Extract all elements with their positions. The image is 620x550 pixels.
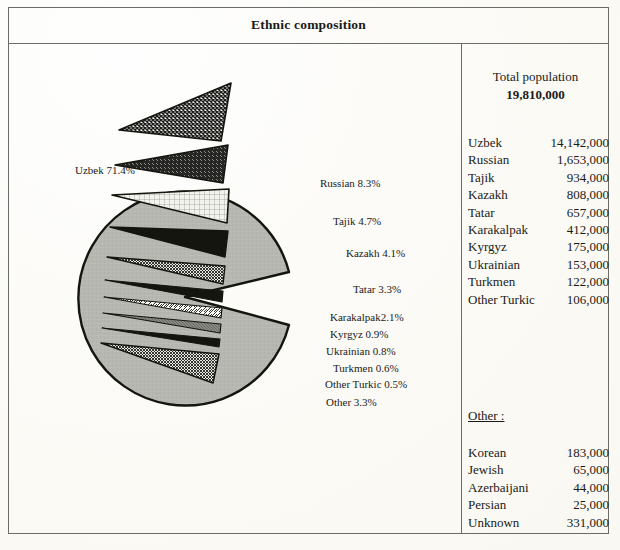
- table-row: Jewish 65,000: [468, 461, 609, 478]
- ethnic-population-table: Uzbek 14,142,000 Russian 1,653,000 Tajik…: [468, 134, 609, 308]
- table-row: Karakalpak 412,000: [468, 221, 609, 238]
- row-value: 657,000: [567, 204, 609, 221]
- table-row: Russian 1,653,000: [468, 151, 609, 168]
- pie-label-uzbek: Uzbek 71.4%: [75, 165, 135, 176]
- table-row: Kazakh 808,000: [468, 186, 609, 203]
- total-population-value: 19,810,000: [462, 86, 609, 104]
- row-label: Ukrainian: [468, 256, 520, 273]
- row-value: 153,000: [567, 256, 609, 273]
- table-row: Persian 25,000: [468, 496, 609, 513]
- pie-label-kazakh: Kazakh 4.1%: [346, 248, 405, 259]
- row-value: 331,000: [567, 514, 609, 531]
- row-label: Azerbaijani: [468, 479, 529, 496]
- title-bar: Ethnic composition: [8, 7, 609, 44]
- row-value: 14,142,000: [551, 134, 610, 151]
- pie-label-russian: Russian 8.3%: [320, 178, 381, 189]
- row-value: 44,000: [573, 479, 609, 496]
- page-title: Ethnic composition: [251, 17, 366, 33]
- pie-label-other-turkic: Other Turkic 0.5%: [325, 379, 407, 390]
- pie-label-karakalpak: Karakalpak2.1%: [330, 312, 404, 323]
- table-row: Unknown 331,000: [468, 514, 609, 531]
- pie-slice-russian: [119, 83, 231, 141]
- row-value: 934,000: [567, 169, 609, 186]
- row-label: Kyrgyz: [468, 238, 507, 255]
- table-row: Other Turkic 106,000: [468, 291, 609, 308]
- table-row: Ukrainian 153,000: [468, 256, 609, 273]
- row-value: 65,000: [573, 461, 609, 478]
- row-label: Other Turkic: [468, 291, 535, 308]
- total-population-block: Total population 19,810,000: [462, 68, 609, 103]
- pie-label-ukrainian: Ukrainian 0.8%: [326, 346, 396, 357]
- total-population-label: Total population: [462, 68, 609, 86]
- row-label: Tajik: [468, 169, 495, 186]
- table-row: Korean 183,000: [468, 444, 609, 461]
- table-row: Turkmen 122,000: [468, 273, 609, 290]
- row-value: 122,000: [567, 273, 609, 290]
- statistics-panel: Total population 19,810,000 Uzbek 14,142…: [462, 44, 609, 534]
- table-row: Tatar 657,000: [468, 204, 609, 221]
- row-label: Turkmen: [468, 273, 515, 290]
- table-row: Tajik 934,000: [468, 169, 609, 186]
- row-value: 175,000: [567, 238, 609, 255]
- table-row: Uzbek 14,142,000: [468, 134, 609, 151]
- pie-label-tajik: Tajik 4.7%: [333, 216, 381, 227]
- row-label: Unknown: [468, 514, 519, 531]
- row-label: Jewish: [468, 461, 503, 478]
- row-value: 1,653,000: [557, 151, 609, 168]
- row-value: 808,000: [567, 186, 609, 203]
- row-label: Kazakh: [468, 186, 508, 203]
- pie-label-kyrgyz: Kyrgyz 0.9%: [330, 329, 388, 340]
- row-label: Russian: [468, 151, 509, 168]
- pie-label-other: Other 3.3%: [326, 397, 377, 408]
- other-population-table: Korean 183,000 Jewish 65,000 Azerbaijani…: [468, 444, 609, 531]
- pie-label-turkmen: Turkmen 0.6%: [333, 363, 399, 374]
- row-value: 412,000: [567, 221, 609, 238]
- pie-chart-area: Uzbek 71.4% Russian 8.3% Tajik 4.7% Kaza…: [9, 44, 461, 534]
- table-row: Kyrgyz 175,000: [468, 238, 609, 255]
- row-label: Karakalpak: [468, 221, 528, 238]
- table-row: Azerbaijani 44,000: [468, 479, 609, 496]
- row-value: 106,000: [567, 291, 609, 308]
- other-section-header: Other :: [468, 408, 504, 424]
- row-value: 25,000: [573, 496, 609, 513]
- row-value: 183,000: [567, 444, 609, 461]
- row-label: Korean: [468, 444, 506, 461]
- pie-label-tatar: Tatar 3.3%: [353, 284, 401, 295]
- row-label: Tatar: [468, 204, 495, 221]
- row-label: Uzbek: [468, 134, 502, 151]
- row-label: Persian: [468, 496, 506, 513]
